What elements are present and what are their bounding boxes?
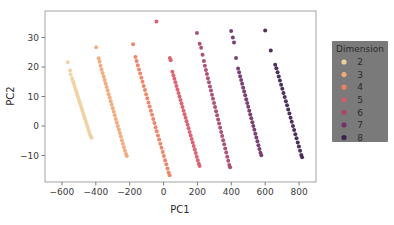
scatter-point xyxy=(177,95,181,99)
scatter-point xyxy=(118,131,122,135)
legend-label-8[interactable]: 8 xyxy=(357,133,363,143)
legend-swatch-4[interactable] xyxy=(341,85,346,90)
y-axis-ticks: −100102030 xyxy=(20,33,45,161)
y-tick-label: 20 xyxy=(28,62,40,72)
legend[interactable]: Dimension 2345678 xyxy=(332,41,388,143)
scatter-point xyxy=(209,89,213,93)
scatter-point xyxy=(219,130,223,134)
scatter-point xyxy=(121,142,125,146)
scatter-point xyxy=(154,20,158,24)
scatter-point xyxy=(242,89,246,93)
scatter-point xyxy=(274,66,278,70)
legend-label-2[interactable]: 2 xyxy=(357,57,363,67)
scatter-point xyxy=(284,99,288,103)
scatter-point xyxy=(286,107,290,111)
scatter-point xyxy=(110,103,114,107)
scatter-point xyxy=(181,105,185,109)
legend-label-5[interactable]: 5 xyxy=(357,95,363,105)
legend-label-7[interactable]: 7 xyxy=(357,120,363,130)
legend-swatch-3[interactable] xyxy=(341,72,346,77)
scatter-point xyxy=(142,84,146,88)
scatter-point xyxy=(112,110,116,114)
legend-swatch-5[interactable] xyxy=(341,97,346,102)
scatter-point xyxy=(150,113,154,117)
y-tick-label: 10 xyxy=(28,92,40,102)
scatter-point xyxy=(278,79,282,83)
scatter-point xyxy=(192,144,196,148)
scatter-point xyxy=(221,138,225,142)
scatter-point xyxy=(241,86,245,90)
scatter-point xyxy=(158,142,162,146)
scatter-point xyxy=(191,140,195,144)
scatter-point xyxy=(171,73,175,77)
legend-swatch-2[interactable] xyxy=(341,59,346,64)
x-tick-label: −200 xyxy=(117,187,142,197)
scatter-point xyxy=(151,117,155,121)
scatter-point xyxy=(259,153,263,157)
scatter-point xyxy=(107,92,111,96)
scatter-point xyxy=(135,59,139,63)
scatter-point xyxy=(108,96,112,100)
scatter-point xyxy=(203,64,207,68)
scatter-point xyxy=(145,96,149,100)
scatter-point xyxy=(280,87,284,91)
y-tick-label: −10 xyxy=(20,151,39,161)
scatter-point xyxy=(223,146,227,150)
scatter-point xyxy=(217,122,221,126)
scatter-point xyxy=(152,121,156,125)
scatter-point xyxy=(208,84,212,88)
scatter-point xyxy=(296,140,300,144)
scatter-point xyxy=(199,46,203,50)
scatter-point xyxy=(99,64,103,68)
scatter-point xyxy=(287,112,291,116)
scatter-point xyxy=(168,173,172,177)
scatter-point xyxy=(289,116,293,120)
scatter-point xyxy=(195,155,199,159)
scatter-point xyxy=(249,116,253,120)
scatter-point xyxy=(116,124,120,128)
y-tick-label: 0 xyxy=(33,121,39,131)
scatter-point xyxy=(101,71,105,75)
scatter-point xyxy=(251,124,255,128)
legend-swatch-8[interactable] xyxy=(341,135,346,140)
scatter-point xyxy=(174,84,178,88)
scatter-point xyxy=(202,59,206,63)
x-tick-label: 200 xyxy=(189,187,206,197)
y-axis-title: PC2 xyxy=(5,86,16,105)
scatter-point xyxy=(198,164,202,168)
scatter-point xyxy=(210,93,214,97)
scatter-point xyxy=(138,72,142,76)
scatter-point xyxy=(201,53,205,57)
scatter-point xyxy=(163,158,167,162)
scatter-point xyxy=(215,113,219,117)
scatter-point xyxy=(195,31,199,35)
scatter-point xyxy=(237,70,241,74)
legend-label-4[interactable]: 4 xyxy=(357,82,363,92)
scatter-point xyxy=(276,70,280,74)
scatter-point xyxy=(66,60,70,64)
x-tick-label: 800 xyxy=(290,187,307,197)
scatter-point xyxy=(141,80,145,84)
scatter-point xyxy=(226,159,230,163)
scatter-point xyxy=(293,132,297,136)
scatter-point xyxy=(298,149,302,153)
scatter-point xyxy=(137,67,141,71)
legend-swatch-6[interactable] xyxy=(341,110,346,115)
legend-label-6[interactable]: 6 xyxy=(357,108,363,118)
scatter-point xyxy=(143,88,147,92)
scatter-point xyxy=(213,105,217,109)
legend-swatch-7[interactable] xyxy=(341,122,346,127)
scatter-point xyxy=(248,112,252,116)
scatter-point xyxy=(225,155,229,159)
scatter-point xyxy=(193,148,197,152)
scatter-point xyxy=(90,136,94,140)
scatter-point xyxy=(236,66,240,70)
scatter-point xyxy=(131,42,135,46)
scatter-point xyxy=(184,116,188,120)
legend-label-3[interactable]: 3 xyxy=(357,70,363,80)
y-tick-label: 30 xyxy=(28,33,40,43)
scatter-point xyxy=(102,74,106,78)
scatter-point xyxy=(250,120,254,124)
scatter-point xyxy=(117,128,121,132)
scatter-point xyxy=(283,95,287,99)
